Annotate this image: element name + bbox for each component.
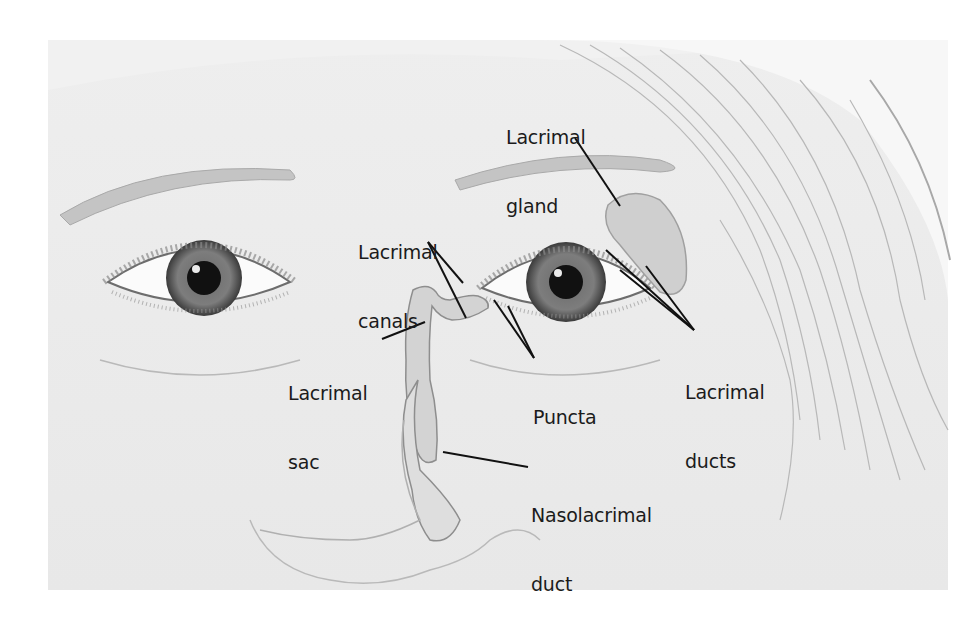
label-lacrimal-canals-line1: Lacrimal — [358, 241, 438, 264]
label-lacrimal-ducts-line2: ducts — [685, 450, 765, 473]
label-lacrimal-ducts-line1: Lacrimal — [685, 381, 765, 404]
label-puncta: Puncta — [533, 360, 597, 452]
face — [48, 40, 950, 590]
label-lacrimal-sac: Lacrimal sac — [288, 336, 368, 497]
label-lacrimal-ducts: Lacrimal ducts — [685, 335, 765, 496]
label-lacrimal-gland-line1: Lacrimal — [506, 126, 586, 149]
label-lacrimal-sac-line2: sac — [288, 451, 368, 474]
label-nasolacrimal-duct-line1: Nasolacrimal — [531, 504, 652, 527]
label-lacrimal-sac-line1: Lacrimal — [288, 382, 368, 405]
label-lacrimal-canals: Lacrimal canals — [358, 195, 438, 356]
label-nasolacrimal-duct: Nasolacrimal duct — [531, 458, 652, 618]
face-illustration — [0, 0, 965, 618]
label-lacrimal-gland: Lacrimal gland — [506, 80, 586, 241]
label-lacrimal-canals-line2: canals — [358, 310, 438, 333]
label-lacrimal-gland-line2: gland — [506, 195, 586, 218]
label-puncta-line1: Puncta — [533, 406, 597, 429]
label-nasolacrimal-duct-line2: duct — [531, 573, 652, 596]
